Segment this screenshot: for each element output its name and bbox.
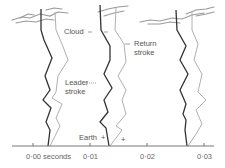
cloud-label: Cloud — [64, 28, 84, 36]
leader-stroke-1 — [41, 9, 52, 146]
leader-stroke-label-line2: stroke — [65, 88, 85, 96]
leader-stroke-label-line1: Leader — [65, 79, 88, 87]
ground-plus-sign: + — [121, 136, 125, 144]
tick-label-1: 0·01 — [83, 152, 98, 161]
tick-label-0: 0·00 seconds — [26, 152, 71, 161]
return-stroke-label-line1: Return — [134, 40, 157, 48]
stroke-group-2 — [100, 5, 126, 146]
earth-plus-sign: + — [101, 134, 105, 142]
label-pointers — [87, 32, 130, 83]
cloud-shapes — [12, 6, 214, 24]
earth-label: Earth — [79, 134, 97, 142]
return-stroke-2 — [110, 8, 126, 146]
stroke-group-3 — [176, 10, 206, 146]
return-stroke-label-line2: stroke — [134, 49, 154, 57]
time-axis — [12, 143, 214, 146]
return-stroke-3 — [188, 12, 206, 146]
lightning-diagram — [0, 0, 225, 168]
leader-stroke-2 — [100, 5, 112, 146]
tick-label-2: 0·02 — [140, 152, 155, 161]
tick-label-3: 0·03 — [197, 152, 212, 161]
leader-stroke-3 — [176, 10, 188, 146]
